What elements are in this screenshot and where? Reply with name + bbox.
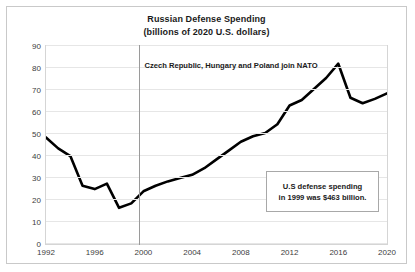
y-gridline: [46, 89, 387, 90]
x-tick-label: 2016: [318, 248, 358, 257]
y-tick-label: 20: [15, 196, 41, 205]
x-tick-label: 2000: [123, 248, 163, 257]
y-gridline: [46, 243, 387, 244]
y-tick-label: 50: [15, 130, 41, 139]
x-tick-label: 2012: [270, 248, 310, 257]
y-tick-label: 60: [15, 108, 41, 117]
x-tick-label: 2004: [172, 248, 212, 257]
plot-wrapper: 9080706050403020100 Czech Republic, Hung…: [7, 7, 408, 265]
x-tick-label: 1992: [26, 248, 66, 257]
y-tick-label: 30: [15, 174, 41, 183]
y-tick-label: 80: [15, 64, 41, 73]
us-spending-callout: U.S defense spending in 1999 was $463 bi…: [266, 171, 379, 212]
plot-area: [45, 45, 388, 245]
y-tick-label: 70: [15, 86, 41, 95]
x-tick-label: 2020: [367, 248, 407, 257]
callout-line-2: in 1999 was $463 billion.: [279, 192, 367, 203]
line-series-russian-defense-spending: [46, 45, 387, 243]
y-gridline: [46, 45, 387, 46]
y-tick-label: 90: [15, 42, 41, 51]
y-axis-labels: 9080706050403020100: [7, 45, 41, 245]
y-tick-label: 40: [15, 152, 41, 161]
x-axis-labels: 19921996200020042008201220162020: [45, 248, 388, 262]
y-gridline: [46, 111, 387, 112]
callout-line-1: U.S defense spending: [283, 181, 362, 192]
chart-frame: Russian Defense Spending (billions of 20…: [6, 6, 407, 264]
y-tick-label: 10: [15, 218, 41, 227]
y-gridline: [46, 221, 387, 222]
nato-event-label: Czech Republic, Hungary and Poland join …: [145, 61, 318, 70]
y-gridline: [46, 155, 387, 156]
nato-event-line: [139, 45, 140, 245]
y-gridline: [46, 133, 387, 134]
x-tick-label: 1996: [75, 248, 115, 257]
x-tick-label: 2008: [221, 248, 261, 257]
